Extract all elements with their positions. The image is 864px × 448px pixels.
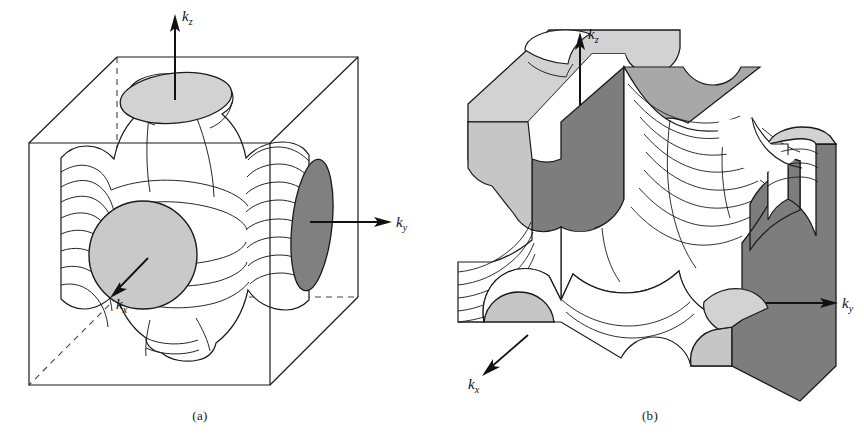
axis-label-ky-a-base: k [396, 214, 403, 230]
axis-arrow-kx-b [482, 335, 528, 376]
front-neck-cap [89, 201, 197, 309]
panel-b-graphic [432, 0, 864, 448]
axis-label-kx-b-sub: x [475, 384, 479, 395]
figure-container: kz ky kx [0, 0, 864, 448]
axis-label-kz-b: kz [588, 26, 599, 45]
axis-label-kz-a-base: k [182, 8, 189, 24]
caption-panel-a: (a) [140, 408, 260, 424]
axis-label-kx-b: kx [468, 376, 479, 395]
caption-panel-b: (b) [590, 408, 710, 424]
axis-label-ky-b: ky [842, 295, 853, 314]
axis-label-ky-a: ky [396, 214, 407, 233]
axis-label-kx-a: kx [116, 296, 127, 315]
axis-label-ky-a-sub: y [403, 222, 407, 233]
panel-a: kz ky kx [0, 0, 432, 448]
axis-label-ky-b-base: k [842, 295, 849, 311]
axis-label-kz-b-base: k [588, 26, 595, 42]
axis-label-kx-a-sub: x [123, 304, 127, 315]
panel-a-graphic [0, 0, 432, 448]
axis-label-ky-b-sub: y [849, 303, 853, 314]
axis-label-kx-a-base: k [116, 296, 123, 312]
cut-face-light-left [468, 122, 532, 230]
axis-label-kz-a-sub: z [189, 16, 193, 27]
axis-label-kz-a: kz [182, 8, 193, 27]
axis-label-kx-b-base: k [468, 376, 475, 392]
axis-label-kz-b-sub: z [595, 34, 599, 45]
panel-b: kz ky kx [432, 0, 864, 448]
